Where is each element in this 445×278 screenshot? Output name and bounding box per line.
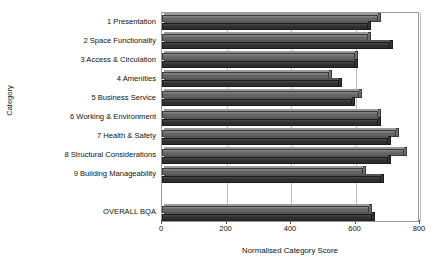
bar-chart-figure: Category 1 Presentation2 Space Functiona… (0, 0, 445, 278)
bar-end-cap (355, 59, 358, 68)
y-axis-tick-label: 1 Presentation (18, 17, 156, 26)
bar-end-cap (396, 128, 399, 137)
bar-end-cap (388, 136, 391, 145)
x-axis-title: Normalised Category Score (161, 246, 419, 255)
y-axis-tick-label: OVERALL BQA (18, 207, 156, 216)
bar-body (162, 214, 372, 221)
bar-body (162, 99, 352, 106)
bar (162, 138, 388, 145)
bar-end-cap (390, 40, 393, 49)
bar-body (162, 23, 368, 30)
bar-end-cap (388, 155, 391, 164)
bar-end-cap (339, 78, 342, 87)
bar-end-cap (381, 174, 384, 183)
bar-body (162, 138, 388, 145)
bar-end-cap (404, 147, 407, 156)
y-axis-tick-label: 4 Amenities (18, 74, 156, 83)
bar-body (162, 61, 355, 68)
y-axis-title: Category (5, 56, 14, 146)
bar (162, 119, 378, 126)
plot-area: Building 1 Building 2 (161, 12, 419, 222)
x-axis-tick-label: 400 (284, 224, 297, 233)
bar-body (162, 176, 381, 183)
bar-body (162, 157, 388, 164)
bar-body (162, 80, 339, 87)
x-axis-tick-label: 0 (159, 224, 163, 233)
x-axis-tick-label: 600 (348, 224, 361, 233)
bar (162, 80, 339, 87)
bar-end-cap (368, 21, 371, 30)
y-axis-tick-label: 7 Health & Safety (18, 131, 156, 140)
x-axis-tick-labels: 0200400600800 (161, 224, 419, 236)
bar-end-cap (378, 13, 381, 22)
x-axis-tick-label: 800 (413, 224, 426, 233)
bar-end-cap (372, 212, 375, 221)
bar-body (162, 119, 378, 126)
bar (162, 23, 368, 30)
bar (162, 176, 381, 183)
bar (162, 42, 390, 49)
bar (162, 214, 372, 221)
x-axis-tick-label: 200 (219, 224, 232, 233)
gridline (420, 13, 421, 221)
y-axis-tick-label: 9 Building Manageability (18, 169, 156, 178)
bar-end-cap (352, 97, 355, 106)
y-axis-tick-label: 2 Space Functionality (18, 36, 156, 45)
bar (162, 99, 352, 106)
y-axis-tick-labels: 1 Presentation2 Space Functionality3 Acc… (18, 12, 156, 222)
y-axis-tick-label: 3 Access & Circulation (18, 55, 156, 64)
bar-end-cap (378, 117, 381, 126)
bar-end-cap (359, 89, 362, 98)
y-axis-tick-label: 6 Working & Environment (18, 112, 156, 121)
y-axis-tick-label: 8 Structural Considerations (18, 150, 156, 159)
bar (162, 157, 388, 164)
bar (162, 61, 355, 68)
bar-body (162, 42, 390, 49)
y-axis-tick-label: 5 Business Service (18, 93, 156, 102)
